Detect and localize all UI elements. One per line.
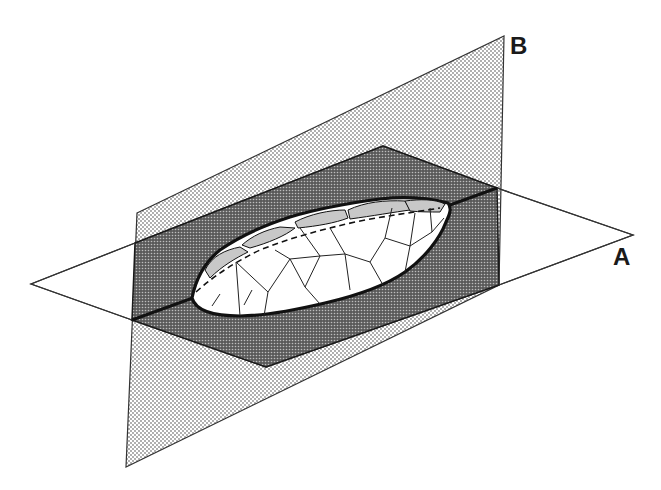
plane-a-right-edge — [497, 188, 633, 285]
plane-a-label: A — [613, 245, 630, 269]
plane-b-label: B — [510, 34, 527, 58]
plane-intersection-diagram — [0, 0, 661, 490]
plane-a-left-edge — [31, 243, 135, 320]
